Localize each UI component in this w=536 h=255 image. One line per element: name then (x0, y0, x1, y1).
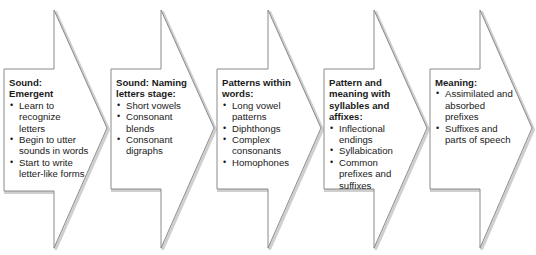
stage-1: Sound: Emergent Learn to recognize lette… (9, 77, 101, 180)
title-line: letters stage: (116, 88, 196, 99)
list-item: Complex consonants (222, 134, 294, 157)
stage-items: Long vowel patterns Diphthongs Complex c… (222, 100, 304, 168)
stage-title: Pattern and meaning with syllables and a… (329, 77, 409, 123)
stage-title: Patterns within words: (222, 77, 304, 100)
title-line: Meaning: (435, 77, 519, 88)
stage-items: Short vowels Consonant blends Consonant … (116, 100, 196, 157)
list-item: Syllabication (329, 145, 409, 156)
list-item: Long vowel patterns (222, 100, 294, 123)
stage-5: Meaning: Assimilated and absorbed prefix… (435, 77, 519, 145)
title-line: Pattern and (329, 77, 409, 88)
list-item: Assimilated and absorbed prefixes (435, 88, 519, 122)
list-item: Consonant digraphs (116, 134, 184, 157)
stage-title: Meaning: (435, 77, 519, 88)
stage-title: Sound: Naming letters stage: (116, 77, 196, 100)
list-item: Homophones (222, 157, 304, 168)
list-item: Suffixes and parts of speech (435, 123, 521, 146)
title-line: affixes: (329, 111, 409, 122)
list-item: Short vowels (116, 100, 196, 111)
list-item: Start to write letter-like forms (9, 157, 89, 180)
list-item: Consonant blends (116, 111, 184, 134)
stage-2: Sound: Naming letters stage: Short vowel… (116, 77, 196, 157)
stage-3: Patterns within words: Long vowel patter… (222, 77, 304, 168)
title-line: Patterns within (222, 77, 304, 88)
stage-items: Learn to recognize letters Begin to utte… (9, 100, 101, 180)
stage-title: Sound: Emergent (9, 77, 101, 100)
title-line: syllables and (329, 100, 409, 111)
stage-items: Assimilated and absorbed prefixes Suffix… (435, 88, 519, 145)
title-line: words: (222, 88, 304, 99)
list-item: Diphthongs (222, 123, 304, 134)
list-item: Learn to recognize letters (9, 100, 74, 134)
stage-4: Pattern and meaning with syllables and a… (329, 77, 409, 191)
title-line: meaning with (329, 88, 409, 99)
title-line: Sound: Naming (116, 77, 196, 88)
title-line: Emergent (9, 88, 101, 99)
list-item: Begin to utter sounds in words (9, 134, 95, 157)
list-item: Common prefixes and suffixes (329, 157, 401, 191)
title-line: Sound: (9, 77, 101, 88)
stage-items: Inflectional endings Syllabication Commo… (329, 123, 409, 191)
list-item: Inflectional endings (329, 123, 401, 146)
